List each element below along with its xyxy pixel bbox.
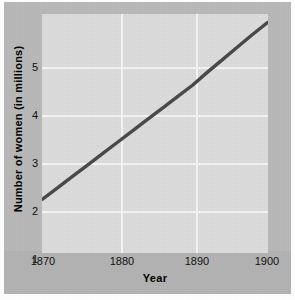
- x-axis-title: Year: [42, 272, 268, 284]
- y-axis-title: Number of women (in millions): [12, 39, 24, 219]
- plot-area: [42, 14, 268, 253]
- chart-screenshot: 5 4 3 2 1 1870 1880 1890 1900 Year Numbe…: [0, 0, 295, 300]
- x-axis-tick-labels: 1870 1880 1890 1900: [0, 256, 295, 272]
- x-tick-label-1870: 1870: [20, 256, 66, 267]
- x-tick-label-1880: 1880: [99, 256, 145, 267]
- plot-inner: [42, 14, 268, 253]
- x-tick-label-1900: 1900: [244, 256, 290, 267]
- series-line-number-of-women: [42, 14, 268, 253]
- x-tick-label-1890: 1890: [174, 256, 220, 267]
